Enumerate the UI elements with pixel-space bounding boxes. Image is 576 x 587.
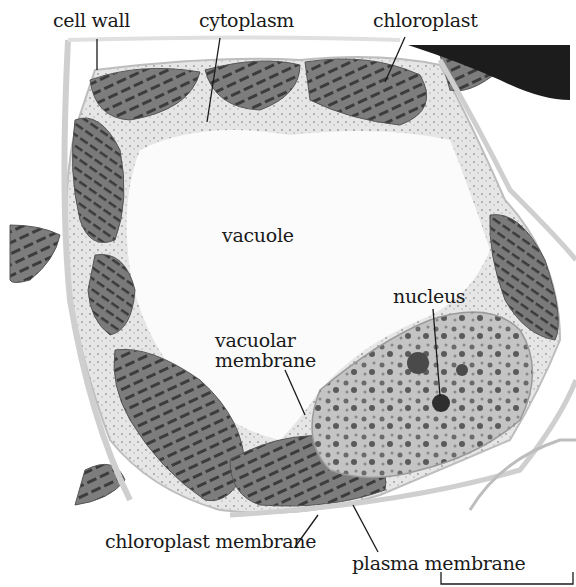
plant-cell-micrograph: cell wall cytoplasm chloroplast vacuole … <box>0 0 576 587</box>
label-plasma-membrane: plasma membrane <box>352 553 526 574</box>
label-vacuole: vacuole <box>222 225 294 246</box>
label-vacuolar-membrane-line2: membrane <box>215 350 316 371</box>
label-nucleus: nucleus <box>393 286 465 307</box>
label-vacuolar-membrane-line1: vacuolar <box>215 330 295 351</box>
micrograph-image <box>0 0 576 587</box>
label-cytoplasm: cytoplasm <box>199 10 294 31</box>
cell-wall <box>68 38 400 41</box>
nucleolus <box>432 394 450 412</box>
label-chloroplast-membrane: chloroplast membrane <box>105 531 316 552</box>
label-chloroplast: chloroplast <box>373 10 478 31</box>
label-cell-wall: cell wall <box>53 10 130 31</box>
chloroplast <box>10 225 60 283</box>
